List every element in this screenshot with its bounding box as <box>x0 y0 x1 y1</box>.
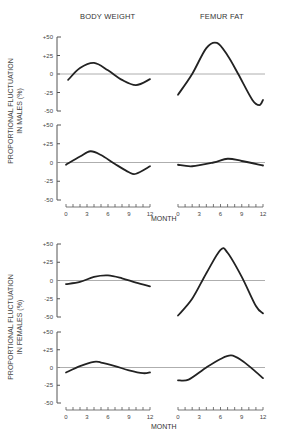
y-tick-label: -25 <box>44 382 53 388</box>
y-tick-label: -25 <box>44 296 53 302</box>
y-tick-label: -50 <box>44 400 53 406</box>
x-tick-label: 6 <box>106 414 110 420</box>
x-tick-label: 6 <box>106 211 110 217</box>
x-tick-label: 9 <box>127 211 131 217</box>
x-tick-label: 3 <box>198 211 202 217</box>
chart-canvas: +50+250-25-50+50+250-25-50+50+250-25-50+… <box>0 0 283 441</box>
females-femur-fat-lower-curve <box>178 355 263 380</box>
y-tick-label: 0 <box>50 278 54 284</box>
x-tick-label: 3 <box>85 414 89 420</box>
x-tick-label: 12 <box>147 414 154 420</box>
y-tick-label: 0 <box>50 160 54 166</box>
y-tick-label: -50 <box>44 314 53 320</box>
y-tick-label: -25 <box>44 90 53 96</box>
y-tick-label: +25 <box>43 141 54 147</box>
x-tick-label: 0 <box>64 211 68 217</box>
x-tick-label: 9 <box>127 414 131 420</box>
females-femur-fat-upper-curve <box>178 248 263 315</box>
y-tick-label: 0 <box>50 71 54 77</box>
y-tick-label: +50 <box>43 329 54 335</box>
x-tick-label: 12 <box>260 414 267 420</box>
x-tick-label: 12 <box>260 211 267 217</box>
x-tick-label: 9 <box>240 211 244 217</box>
y-tick-label: -50 <box>44 197 53 203</box>
y-tick-label: +50 <box>43 241 54 247</box>
x-tick-label: 0 <box>176 414 180 420</box>
y-tick-label: 0 <box>50 365 54 371</box>
x-tick-label: 9 <box>240 414 244 420</box>
y-tick-label: -50 <box>44 108 53 114</box>
y-tick-label: +25 <box>43 347 54 353</box>
x-tick-label: 0 <box>176 211 180 217</box>
x-tick-label: 6 <box>219 211 223 217</box>
x-tick-label: 3 <box>85 211 89 217</box>
x-tick-label: 3 <box>198 414 202 420</box>
y-tick-label: +25 <box>43 53 54 59</box>
y-tick-label: +25 <box>43 259 54 265</box>
x-tick-label: 6 <box>219 414 223 420</box>
y-tick-label: +50 <box>43 122 54 128</box>
y-tick-label: -25 <box>44 178 53 184</box>
y-tick-label: +50 <box>43 34 54 40</box>
x-tick-label: 0 <box>64 414 68 420</box>
x-tick-label: 12 <box>147 211 154 217</box>
